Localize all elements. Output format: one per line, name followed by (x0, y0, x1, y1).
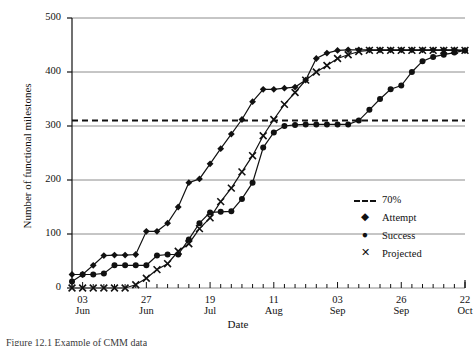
x-axis-title: Date (0, 318, 476, 330)
dashed-line-swatch (354, 200, 376, 202)
marker-circle (356, 118, 362, 124)
marker-cross (228, 185, 235, 192)
marker-cross (270, 116, 277, 123)
x-tick-label-1: 27Jun (126, 294, 166, 317)
marker-diamond (175, 204, 182, 211)
legend-label: 70% (378, 194, 401, 205)
figure-container: Number of functional milestones Date 010… (0, 0, 476, 346)
marker-cross (334, 55, 341, 62)
marker-circle (271, 129, 277, 135)
x-tick-label-5: 26Sep (381, 294, 421, 317)
y-axis-title: Number of functional milestones (21, 66, 33, 246)
marker-circle (303, 121, 309, 127)
marker-circle (111, 262, 117, 268)
marker-diamond (69, 271, 76, 278)
x-tick-day: 22 (445, 294, 476, 305)
marker-circle (420, 58, 426, 64)
marker-circle (228, 208, 234, 214)
marker-circle (80, 272, 86, 278)
marker-circle (154, 253, 160, 259)
circle-marker-icon: ● (352, 226, 378, 244)
marker-cross (249, 152, 256, 159)
marker-circle (239, 196, 245, 202)
marker-circle (122, 262, 128, 268)
legend-label: Attempt (378, 212, 416, 223)
x-tick-label-4: 03Sep (318, 294, 358, 317)
legend-label: Success (378, 230, 415, 241)
x-tick-day: 03 (318, 294, 358, 305)
marker-diamond (132, 251, 139, 258)
y-tick-label-0: 0 (21, 281, 61, 292)
marker-cross (239, 169, 246, 176)
y-tick-label-100: 100 (21, 227, 61, 238)
marker-circle (281, 123, 287, 129)
marker-diamond (334, 47, 341, 54)
marker-circle (90, 272, 96, 278)
marker-diamond (111, 252, 118, 259)
cross-marker-icon: ✕ (352, 244, 378, 262)
x-tick-day: 27 (126, 294, 166, 305)
marker-cross (207, 214, 214, 221)
marker-cross (196, 225, 203, 232)
marker-cross (143, 275, 150, 282)
legend-item-success: ●Success (352, 226, 422, 244)
diamond-marker-icon: ◆ (352, 208, 378, 226)
marker-circle (313, 121, 319, 127)
x-tick-label-0: 03Jun (63, 294, 103, 317)
marker-cross (154, 266, 161, 273)
marker-circle (250, 180, 256, 186)
x-tick-month: Sep (381, 305, 421, 317)
marker-circle (398, 83, 404, 89)
x-tick-label-2: 19Jul (190, 294, 230, 317)
legend-item-projected: ✕Projected (352, 244, 422, 262)
chart-legend: 70%◆Attempt●Success✕Projected (352, 190, 422, 262)
x-tick-month: Aug (254, 305, 294, 317)
x-tick-day: 03 (63, 294, 103, 305)
marker-circle (260, 145, 266, 151)
y-tick-label-300: 300 (21, 119, 61, 130)
marker-cross (324, 62, 331, 69)
marker-circle (292, 122, 298, 128)
marker-diamond (122, 252, 129, 259)
figure-caption: Figure 12.1 Example of CMM data (6, 337, 147, 346)
marker-diamond (324, 50, 331, 57)
marker-circle (345, 121, 351, 127)
x-tick-month: Oct (445, 305, 476, 317)
x-tick-month: Jun (126, 305, 166, 317)
y-tick-label-500: 500 (21, 11, 61, 22)
x-tick-day: 19 (190, 294, 230, 305)
marker-cross (164, 260, 171, 267)
y-tick-label-200: 200 (21, 173, 61, 184)
x-tick-day: 11 (254, 294, 294, 305)
marker-diamond (270, 86, 277, 93)
marker-circle (377, 96, 383, 102)
x-tick-day: 26 (381, 294, 421, 305)
marker-circle (143, 262, 149, 268)
legend-label: Projected (378, 248, 422, 259)
marker-circle (165, 252, 171, 258)
marker-cross (260, 132, 267, 139)
x-tick-label-3: 11Aug (254, 294, 294, 317)
x-tick-month: Jul (190, 305, 230, 317)
marker-circle (69, 279, 75, 285)
marker-cross (217, 198, 224, 205)
x-tick-month: Sep (318, 305, 358, 317)
marker-circle (388, 86, 394, 92)
marker-circle (133, 262, 139, 268)
marker-circle (335, 121, 341, 127)
legend-item-70pct: 70% (352, 190, 422, 208)
legend-item-attempt: ◆Attempt (352, 208, 422, 226)
marker-circle (196, 220, 202, 226)
marker-diamond (281, 85, 288, 92)
x-tick-label-6: 22Oct (445, 294, 476, 317)
marker-diamond (313, 55, 320, 62)
marker-cross (281, 101, 288, 108)
marker-circle (324, 121, 330, 127)
dashed-line-icon (352, 190, 378, 208)
marker-circle (101, 270, 107, 276)
marker-circle (430, 54, 436, 60)
marker-circle (366, 107, 372, 113)
marker-circle (409, 69, 415, 75)
x-tick-month: Jun (63, 305, 103, 317)
marker-circle (218, 209, 224, 215)
